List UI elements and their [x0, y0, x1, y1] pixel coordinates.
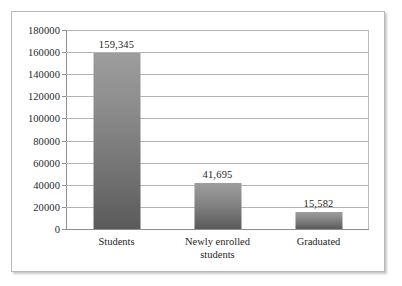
bar[interactable] [194, 183, 241, 229]
y-axis-tick-label: 80000 [33, 135, 60, 146]
y-axis-tick-label: 60000 [33, 157, 60, 168]
bar-group: 41,695Newly enrolledstudents [167, 30, 268, 229]
bar-value-label: 41,695 [202, 169, 232, 180]
x-axis-category-line: Graduated [264, 236, 374, 249]
plot-area: 1800001600001400001200001000008000060000… [66, 30, 369, 229]
bar-group: 15,582Graduated [268, 30, 369, 229]
bar-value-label: 15,582 [303, 198, 333, 209]
x-axis-category-line: Newly enrolled [163, 236, 273, 249]
y-axis-tick-label: 120000 [28, 91, 60, 102]
bar-value-label: 159,345 [99, 39, 135, 50]
chart-figure-frame: 1800001600001400001200001000008000060000… [11, 11, 385, 272]
bar-group: 159,345Students [66, 30, 167, 229]
y-axis-tick [62, 229, 66, 230]
x-axis-category-line: students [163, 249, 273, 262]
x-axis-category-line: Students [62, 236, 172, 249]
gridline [66, 229, 369, 230]
y-axis-tick-label: 20000 [33, 201, 60, 212]
x-axis-category-label: Students [62, 236, 172, 249]
y-axis-tick-label: 140000 [28, 69, 60, 80]
x-axis-category-label: Newly enrolledstudents [163, 236, 273, 261]
bar-chart: 1800001600001400001200001000008000060000… [12, 12, 386, 273]
y-axis-tick-label: 160000 [28, 47, 60, 58]
bar[interactable] [295, 212, 342, 229]
y-axis-tick-label: 100000 [28, 113, 60, 124]
y-axis-tick-label: 180000 [28, 25, 60, 36]
bar[interactable] [93, 53, 140, 229]
y-axis-tick-label: 40000 [33, 179, 60, 190]
x-axis-category-label: Graduated [264, 236, 374, 249]
y-axis-tick-label: 0 [55, 224, 60, 235]
